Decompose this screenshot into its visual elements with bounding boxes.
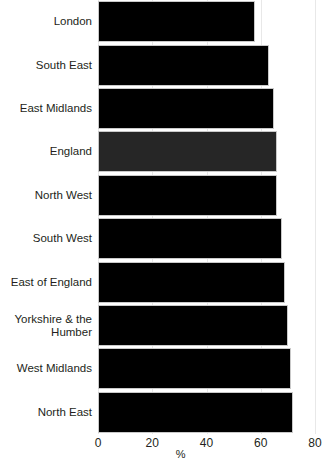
bar (98, 262, 285, 303)
bar (98, 45, 269, 86)
x-tick-label: 0 (95, 436, 102, 450)
category-label: East of England (0, 276, 92, 289)
bar (98, 88, 274, 129)
category-label: South East (0, 59, 92, 72)
x-axis-title: % (176, 448, 186, 461)
category-label: England (0, 145, 92, 158)
bar (98, 175, 277, 216)
x-tick-label: 20 (146, 436, 159, 450)
bar (98, 348, 291, 389)
plot-area (98, 0, 315, 434)
category-label: North East (0, 406, 92, 419)
category-label: East Midlands (0, 102, 92, 115)
bar (98, 1, 255, 42)
bar-series (98, 0, 315, 434)
category-label: South West (0, 232, 92, 245)
category-label: Yorkshire & the Humber (0, 313, 92, 339)
bar (98, 218, 282, 259)
x-tick-label: 40 (200, 436, 213, 450)
bar (98, 131, 277, 172)
category-label: London (0, 15, 92, 28)
category-label: West Midlands (0, 362, 92, 375)
x-axis: % 020406080 (0, 434, 328, 469)
category-label: North West (0, 189, 92, 202)
x-tick-label: 60 (254, 436, 267, 450)
bar (98, 305, 288, 346)
gridline (315, 0, 316, 434)
category-axis-labels: LondonSouth EastEast MidlandsEnglandNort… (0, 0, 92, 434)
bar (98, 392, 293, 433)
x-tick-label: 80 (308, 436, 321, 450)
bar-chart: LondonSouth EastEast MidlandsEnglandNort… (0, 0, 328, 469)
